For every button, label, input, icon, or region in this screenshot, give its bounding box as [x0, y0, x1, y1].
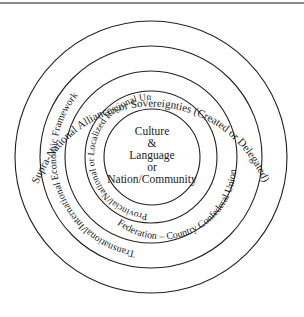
center-line-1: Culture [135, 125, 170, 137]
center-line-2: & [148, 137, 157, 149]
concentric-diagram: Culture & Language or Nation/Community P… [0, 0, 304, 317]
center-line-5: Nation/Community [107, 173, 197, 186]
center-label: Culture & Language or Nation/Community [107, 125, 197, 186]
center-line-4: or [147, 161, 157, 173]
